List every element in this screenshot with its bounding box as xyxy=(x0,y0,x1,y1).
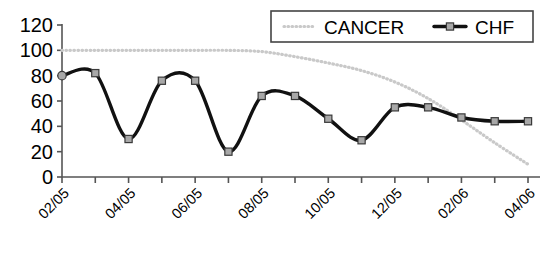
y-axis-tick-label: 20 xyxy=(31,141,53,163)
line-chart: 020406080100120 02/0504/0506/0508/0510/0… xyxy=(0,0,549,257)
data-point-marker xyxy=(158,77,165,84)
y-axis-tick-label: 40 xyxy=(31,115,53,137)
data-point-marker xyxy=(458,114,465,121)
data-point-marker xyxy=(192,77,199,84)
data-point-marker xyxy=(225,148,232,155)
y-axis-tick-label: 100 xyxy=(20,39,53,61)
data-point-marker xyxy=(325,115,332,122)
legend-label-cancer: CANCER xyxy=(324,17,404,38)
chart-legend: CANCERCHF xyxy=(271,11,533,42)
data-point-marker xyxy=(358,137,365,144)
data-point-marker xyxy=(524,118,531,125)
data-point-marker xyxy=(92,70,99,77)
data-point-marker xyxy=(491,118,498,125)
legend-label-chf: CHF xyxy=(475,17,514,38)
data-point-marker xyxy=(125,135,132,142)
y-axis-tick-label: 0 xyxy=(42,166,53,188)
y-axis-tick-label: 60 xyxy=(31,90,53,112)
data-point-marker xyxy=(425,104,432,111)
chart-container: 020406080100120 02/0504/0506/0508/0510/0… xyxy=(0,0,549,257)
data-point-marker xyxy=(258,92,265,99)
data-point-marker xyxy=(291,92,298,99)
y-axis-tick-label: 120 xyxy=(20,14,53,36)
data-point-marker xyxy=(58,71,66,79)
legend-swatch-chf-marker xyxy=(446,23,453,30)
data-point-marker xyxy=(391,104,398,111)
y-axis-tick-label: 80 xyxy=(31,65,53,87)
